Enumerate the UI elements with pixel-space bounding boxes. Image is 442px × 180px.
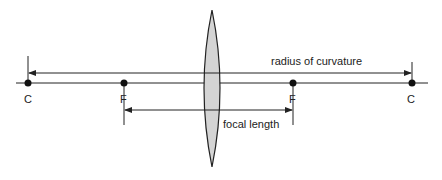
lens [204, 10, 220, 167]
right-focus-label: F [289, 93, 296, 105]
focal-length-label: focal length [223, 118, 279, 130]
radius-of-curvature-label: radius of curvature [271, 55, 362, 67]
lens-diagram: C F F C radius of curvature focal length [0, 0, 442, 180]
left-center-point [25, 80, 32, 87]
right-center-point [409, 80, 416, 87]
left-focus-point [121, 80, 128, 87]
right-center-label: C [407, 93, 415, 105]
left-focus-label: F [120, 93, 127, 105]
left-center-label: C [24, 93, 32, 105]
right-focus-point [290, 80, 297, 87]
